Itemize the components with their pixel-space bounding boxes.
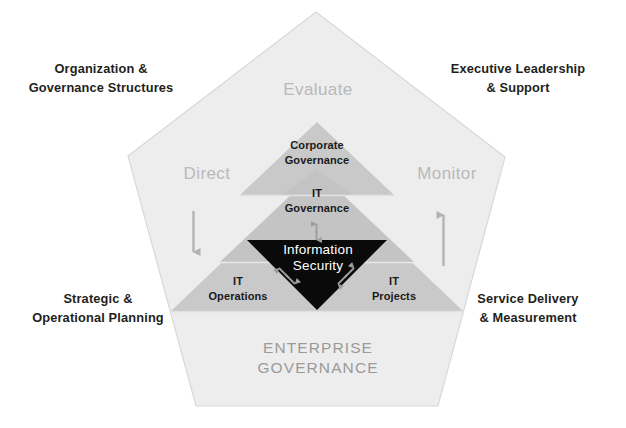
corner-label-service-delivery-measurement: Service Delivery & Measurement — [438, 290, 618, 327]
edm-label-monitor: Monitor — [404, 164, 490, 184]
footer-label-enterprise-governance: ENTERPRISE GOVERNANCE — [243, 338, 393, 378]
layer-label-it-governance: IT Governance — [275, 186, 359, 216]
corner-label-organization-governance-structures: Organization & Governance Structures — [16, 60, 186, 97]
corner-label-strategic-operational-planning: Strategic & Operational Planning — [10, 290, 186, 327]
edm-label-direct: Direct — [168, 164, 246, 184]
enterprise-governance-diagram: Organization & Governance Structures Exe… — [0, 0, 626, 428]
layer-label-it-projects: IT Projects — [352, 274, 436, 304]
corner-label-executive-leadership-support: Executive Leadership & Support — [424, 60, 612, 97]
layer-label-information-security: Information Security — [258, 242, 378, 274]
layer-label-corporate-governance: Corporate Governance — [261, 138, 373, 168]
edm-label-evaluate: Evaluate — [276, 80, 360, 100]
layer-label-it-operations: IT Operations — [196, 274, 280, 304]
